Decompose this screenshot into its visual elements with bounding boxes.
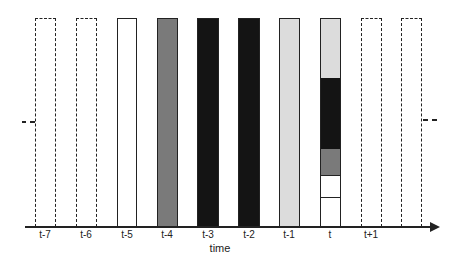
time-window-diagram: t-7 t-6 t-5 t-4 t-3 t-2 t-1 t t+1 time <box>0 0 456 265</box>
tick-label: t-5 <box>112 229 142 240</box>
bar-future <box>401 18 422 227</box>
time-axis <box>25 226 432 228</box>
bar-t-stacked <box>320 18 341 227</box>
tick-label: t-7 <box>30 229 60 240</box>
bar-t-6 <box>76 18 97 227</box>
left-continuation-mark <box>22 121 26 123</box>
segment-light-gray <box>321 19 340 78</box>
tick-label: t <box>315 229 345 240</box>
bar-t-2 <box>238 18 260 227</box>
axis-arrow-icon <box>430 222 440 232</box>
segment-gray <box>321 149 340 176</box>
bar-t-7 <box>35 18 56 227</box>
bar-t-5 <box>117 18 137 227</box>
tick-label: t-2 <box>234 229 264 240</box>
bar-t+1 <box>361 18 382 227</box>
segment-white-lower <box>321 198 340 227</box>
right-continuation-mark <box>423 119 428 121</box>
tick-label: t-1 <box>274 229 304 240</box>
bar-t-1 <box>279 18 300 227</box>
segment-white-upper <box>321 176 340 198</box>
tick-label: t-4 <box>152 229 182 240</box>
axis-title: time <box>200 242 240 254</box>
bar-t-4 <box>157 18 178 227</box>
segment-black <box>321 78 340 149</box>
tick-label: t+1 <box>356 229 386 240</box>
bar-t-3 <box>197 18 219 227</box>
tick-label: t-6 <box>71 229 101 240</box>
right-continuation-mark <box>432 119 437 121</box>
tick-label: t-3 <box>193 229 223 240</box>
